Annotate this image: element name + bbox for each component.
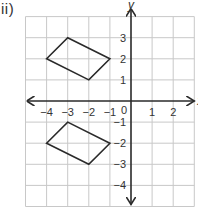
x-tick-label: −4 xyxy=(40,106,53,118)
x-tick-label: −2 xyxy=(83,106,96,118)
y-tick-label: −3 xyxy=(113,158,126,170)
x-axis-label: x xyxy=(196,94,198,108)
y-tick-label: 2 xyxy=(120,53,126,65)
y-tick-label: 3 xyxy=(120,32,126,44)
y-tick-label: −2 xyxy=(113,137,126,149)
x-tick-label: −3 xyxy=(61,106,74,118)
origin-label: 0 xyxy=(121,104,127,116)
y-tick-label: −4 xyxy=(113,179,126,191)
coordinate-grid: −4−3−2−112321−1−2−3−40yx xyxy=(0,0,198,217)
x-tick-label: 2 xyxy=(170,106,176,118)
y-tick-label: 1 xyxy=(120,74,126,86)
y-tick-label: −1 xyxy=(113,116,126,128)
y-axis-label: y xyxy=(127,0,135,12)
x-tick-label: 1 xyxy=(149,106,155,118)
